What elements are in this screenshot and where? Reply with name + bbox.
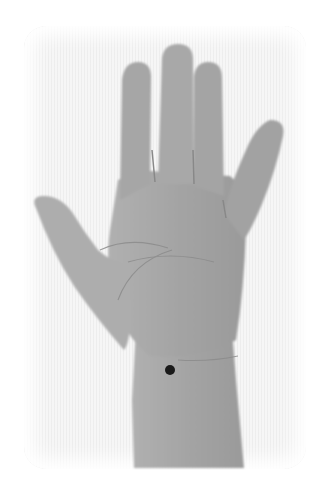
ring-finger xyxy=(194,62,224,196)
middle-finger xyxy=(158,44,194,184)
index-finger xyxy=(120,62,151,200)
hand-illustration xyxy=(0,0,317,487)
acupressure-point-marker xyxy=(165,365,175,375)
